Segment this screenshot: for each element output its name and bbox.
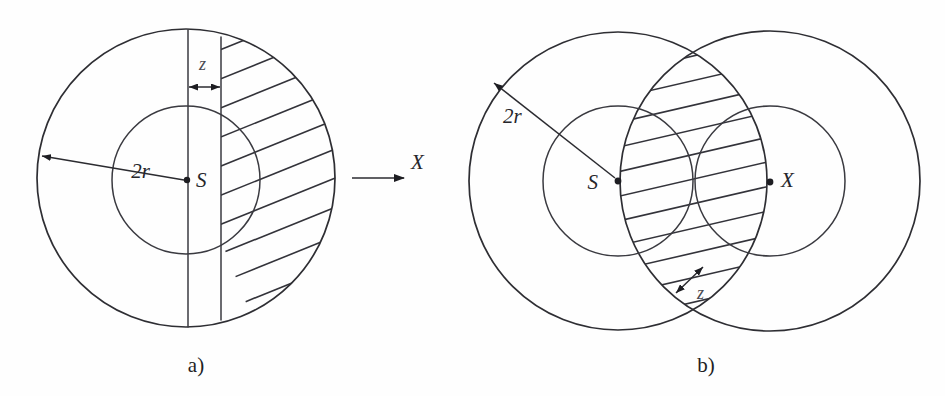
panel-b-radius-label: 2r <box>503 104 523 128</box>
panel-a-caption: a) <box>188 353 204 377</box>
panel-a-axis-label: X <box>410 150 425 174</box>
panel-b: 2r S X z b) <box>469 15 920 377</box>
panel-b-right-center-dot <box>767 179 774 186</box>
panel-b-left-center-dot <box>615 178 622 185</box>
panel-a-strip-width-label: z <box>198 54 206 74</box>
figure-root: 2r S z X a) <box>0 0 945 396</box>
panel-b-radius-line <box>494 83 615 178</box>
panel-b-caption: b) <box>697 353 715 377</box>
panel-a: 2r S z X a) <box>0 0 446 396</box>
figure-canvas: 2r S z X a) <box>0 0 945 396</box>
panel-b-gap-width-label: z <box>696 283 704 303</box>
panel-a-center-label: S <box>196 168 207 192</box>
panel-b-right-center-label: X <box>780 168 795 192</box>
panel-a-radius-label: 2r <box>131 159 151 183</box>
panel-b-left-center-label: S <box>588 170 599 194</box>
panel-a-center-point-dot <box>184 177 190 183</box>
